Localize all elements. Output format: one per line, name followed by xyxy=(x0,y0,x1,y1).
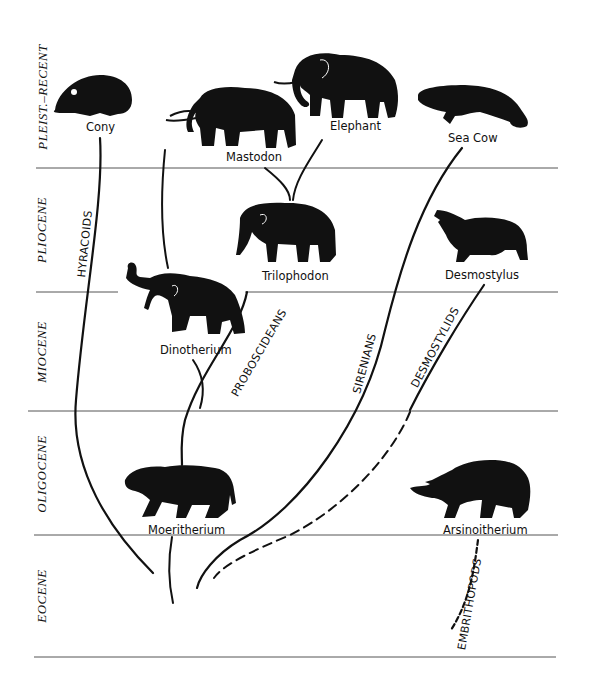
label-elephant: Elephant xyxy=(330,119,381,133)
elephant-silhouette xyxy=(274,53,398,118)
label-cony: Cony xyxy=(86,120,115,134)
label-desmostylus: Desmostylus xyxy=(445,268,519,282)
label-arsinoitherium: Arsinoitherium xyxy=(443,523,528,537)
arsinoitherium-silhouette xyxy=(410,460,530,518)
dinotherium-lower-line xyxy=(193,360,203,408)
era-label-miocene: MIOCENE xyxy=(34,317,50,387)
cony-silhouette xyxy=(54,75,132,116)
moeritherium-base-line xyxy=(169,537,173,603)
mastodon-branch xyxy=(265,168,290,200)
trilophodon-silhouette xyxy=(236,203,336,262)
moeritherium-silhouette xyxy=(125,465,236,518)
label-dinotherium: Dinotherium xyxy=(160,343,232,357)
label-sea-cow: Sea Cow xyxy=(448,131,498,145)
desmostylids-line-solid xyxy=(410,285,484,410)
era-label-pleistocene-recent: PLEIST.–RECENT xyxy=(35,42,51,152)
hyracoids-line xyxy=(75,138,153,573)
era-label-pliocene: PLIOCENE xyxy=(34,195,50,265)
era-label-eocene: EOCENE xyxy=(34,561,50,631)
desmostylus-silhouette xyxy=(434,210,528,262)
mastodon-silhouette xyxy=(166,87,296,148)
diagram-lines xyxy=(0,0,590,681)
era-label-oligocene: OLIGOCENE xyxy=(34,434,50,514)
sea-cow-silhouette xyxy=(418,85,528,128)
label-moeritherium: Moeritherium xyxy=(148,523,225,537)
desmostylids-line-dashed xyxy=(214,412,410,578)
evolution-diagram: PLEIST.–RECENT PLIOCENE MIOCENE OLIGOCEN… xyxy=(0,0,590,681)
label-trilophodon: Trilophodon xyxy=(262,269,329,283)
silhouettes xyxy=(54,53,530,518)
elephant-branch xyxy=(293,140,322,200)
dinotherium-silhouette xyxy=(126,262,245,334)
label-mastodon: Mastodon xyxy=(226,150,282,164)
